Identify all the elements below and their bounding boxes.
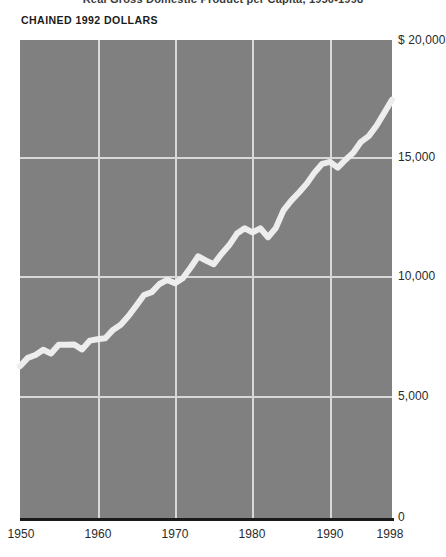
y-axis-units-label: CHAINED 1992 DOLLARS [21,14,158,26]
chart-title: Real Gross Domestic Product per Capita, … [0,0,446,5]
plot-area [20,40,392,518]
x-axis-baseline [20,518,394,521]
data-line-svg [20,40,392,518]
x-tick-label-1980: 1980 [238,527,265,541]
x-tick-label-1960: 1960 [84,527,111,541]
x-tick-label-1990: 1990 [316,527,343,541]
y-tick-label-0: 0 [398,510,405,524]
series-line-gdp-per-capita [20,100,392,366]
x-tick-label-1998: 1998 [376,527,403,541]
x-tick-label-1950: 1950 [7,527,34,541]
y-tick-label-5000: 5,000 [398,389,429,403]
x-tick-label-1970: 1970 [161,527,188,541]
y-tick-label-15000: 15,000 [398,150,435,164]
chart-figure: Real Gross Domestic Product per Capita, … [0,0,446,557]
y-tick-label-10000: 10,000 [398,269,435,283]
y-tick-label-20000: $ 20,000 [398,33,446,47]
